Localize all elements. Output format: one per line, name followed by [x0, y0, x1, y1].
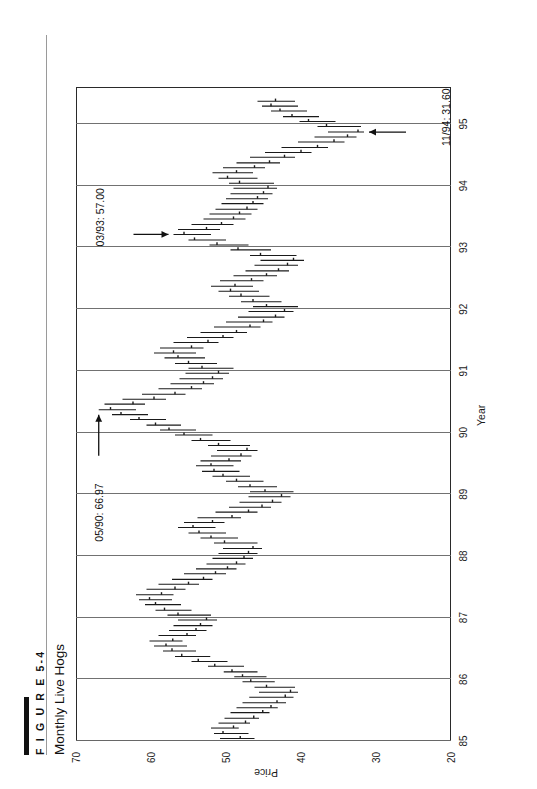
x-tick-label: 88 — [458, 550, 469, 561]
plot-area: 05/90: 66.9703/93: 57.0011/94: 31.60 — [76, 87, 451, 741]
annotation-label: 05/90: 66.97 — [93, 483, 105, 541]
rotated-figure-canvas: F I G U R E 5-4 Monthly Live Hogs 05/90:… — [0, 0, 537, 789]
x-tick-label: 87 — [458, 612, 469, 623]
figure-number-block: F I G U R E 5-4 — [24, 650, 46, 755]
x-tick-label: 89 — [458, 489, 469, 500]
annotation-label: 03/93: 57.00 — [94, 188, 106, 246]
annotation-label: 11/94: 31.60 — [440, 88, 452, 146]
x-tick-label: 85 — [458, 735, 469, 746]
x-tick-label: 94 — [458, 180, 469, 191]
y-tick-label: 40 — [296, 752, 307, 763]
x-tick-label: 86 — [458, 674, 469, 685]
x-tick-label: 91 — [458, 365, 469, 376]
header-divider — [46, 35, 47, 755]
x-tick-label: 93 — [458, 242, 469, 253]
figure-page: F I G U R E 5-4 Monthly Live Hogs 05/90:… — [0, 0, 537, 789]
y-tick-label: 30 — [371, 752, 382, 763]
y-tick-label: 60 — [146, 752, 157, 763]
x-axis-label: Year — [475, 405, 487, 426]
annotation-arrow-head — [95, 415, 102, 422]
figure-rule-bar — [24, 697, 29, 755]
annotation-arrows — [76, 87, 451, 741]
figure-title: Monthly Live Hogs — [52, 644, 67, 755]
x-tick-label: 95 — [458, 118, 469, 129]
x-tick-label: 92 — [458, 304, 469, 315]
y-tick-label: 50 — [221, 752, 232, 763]
x-tick-label: 90 — [458, 427, 469, 438]
y-tick-label: 20 — [446, 752, 457, 763]
figure-number: F I G U R E 5-4 — [34, 650, 46, 755]
annotation-arrow-head — [369, 129, 376, 136]
annotation-arrow-head — [162, 231, 169, 238]
y-axis-label: Price — [254, 767, 278, 779]
y-tick-label: 70 — [71, 752, 82, 763]
